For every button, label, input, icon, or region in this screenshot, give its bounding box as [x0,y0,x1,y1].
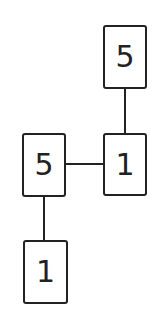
node-label: 5 [34,150,53,180]
node-label: 5 [115,42,134,72]
node-bottom-left: 1 [23,240,68,304]
node-label: 1 [36,257,55,287]
edge-left5-to-right1 [64,163,104,165]
edge-top5-to-right1 [124,87,126,134]
node-top-right: 5 [103,25,147,89]
node-label: 1 [115,150,134,180]
node-middle-left: 5 [22,133,66,197]
node-middle-right: 1 [103,133,147,196]
edge-left5-to-bottom1 [43,195,45,241]
